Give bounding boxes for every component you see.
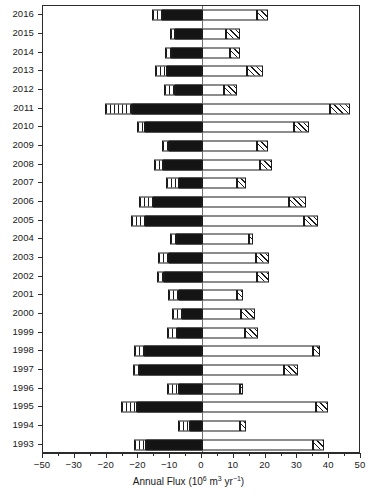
bar-segment-negative-solid	[177, 327, 202, 338]
bar-segment-negative-solid	[175, 29, 202, 40]
bar-segment-positive-open	[202, 346, 313, 357]
bar-segment-positive-open	[202, 234, 249, 245]
y-axis-label-1996: 1996	[12, 383, 34, 393]
bar-segment-positive-hatched	[237, 290, 244, 301]
y-axis-label-1993: 1993	[12, 439, 34, 449]
bar-segment-negative-solid	[162, 10, 202, 21]
bar-segment-negative-striped	[170, 234, 176, 245]
bar-row	[43, 47, 361, 58]
bar-segment-positive-hatched	[256, 253, 269, 264]
bar-segment-negative-solid	[176, 234, 202, 245]
bar-segment-negative-striped	[168, 290, 179, 301]
bar-segment-negative-solid	[182, 309, 202, 320]
x-axis-title-text: Annual Flux (10	[133, 476, 203, 487]
y-axis-tick	[38, 70, 42, 71]
x-axis-tick-major	[265, 453, 266, 458]
bar-segment-positive-open	[202, 402, 316, 413]
x-axis-tick-minor	[344, 453, 345, 456]
y-axis-label-1998: 1998	[12, 345, 34, 355]
bar-segment-negative-striped	[158, 253, 168, 264]
bar-segment-positive-open	[202, 103, 330, 114]
bar-segment-positive-open	[202, 365, 284, 376]
y-axis-label-1995: 1995	[12, 401, 34, 411]
bar-segment-positive-hatched	[260, 159, 272, 170]
bar-row	[43, 309, 361, 320]
x-axis-tick-label: 20	[259, 459, 270, 470]
y-axis-tick	[38, 145, 42, 146]
y-axis-tick	[38, 257, 42, 258]
bar-row	[43, 215, 361, 226]
y-axis-label-2008: 2008	[12, 159, 34, 169]
x-axis-tick-minor	[122, 453, 123, 456]
bar-segment-positive-hatched	[313, 346, 320, 357]
x-axis-title-exponent: −1	[233, 475, 241, 482]
bar-segment-positive-open	[202, 253, 256, 264]
y-axis-label-2013: 2013	[12, 65, 34, 75]
bar-segment-positive-hatched	[284, 365, 299, 376]
y-axis-tick	[38, 33, 42, 34]
bar-segment-positive-hatched	[304, 215, 317, 226]
bar-segment-positive-open	[202, 85, 224, 96]
y-axis-label-2005: 2005	[12, 215, 34, 225]
bar-segment-negative-striped	[154, 159, 163, 170]
y-axis-label-2010: 2010	[12, 121, 34, 131]
bar-row	[43, 327, 361, 338]
bar-segment-positive-hatched	[240, 383, 244, 394]
bar-segment-positive-hatched	[226, 29, 240, 40]
y-axis-tick	[38, 89, 42, 90]
bar-row	[43, 178, 361, 189]
bar-row	[43, 421, 361, 432]
bar-segment-positive-open	[202, 439, 313, 450]
y-axis-label-1999: 1999	[12, 327, 34, 337]
bar-segment-negative-solid	[153, 197, 202, 208]
y-axis-tick	[38, 126, 42, 127]
bar-segment-negative-solid	[144, 346, 202, 357]
x-axis-tick-minor	[312, 453, 313, 456]
y-axis-tick	[38, 238, 42, 239]
bar-segment-positive-open	[202, 141, 257, 152]
y-axis-tick	[38, 108, 42, 109]
bar-row	[43, 253, 361, 264]
x-axis-tick-major	[201, 453, 202, 458]
bar-segment-negative-striped	[165, 47, 171, 58]
bar-segment-negative-striped	[139, 197, 153, 208]
x-axis-tick-minor	[90, 453, 91, 456]
x-axis-tick-minor	[58, 453, 59, 456]
bar-segment-negative-striped	[105, 103, 132, 114]
bar-segment-negative-solid	[145, 215, 202, 226]
bar-row	[43, 141, 361, 152]
bar-segment-positive-open	[202, 383, 240, 394]
y-axis-tick	[38, 220, 42, 221]
x-axis-tick-major	[106, 453, 107, 458]
bar-segment-negative-striped	[133, 365, 139, 376]
bar-segment-negative-striped	[152, 10, 162, 21]
y-axis-label-2011: 2011	[13, 103, 34, 113]
y-axis-label-2014: 2014	[12, 47, 34, 57]
bar-segment-positive-open	[202, 271, 257, 282]
y-axis-label-2003: 2003	[12, 252, 34, 262]
y-axis-label-2012: 2012	[12, 84, 34, 94]
bar-segment-negative-solid	[179, 290, 202, 301]
y-axis-tick	[38, 313, 42, 314]
bar-segment-negative-solid	[169, 253, 202, 264]
bar-row	[43, 365, 361, 376]
bar-segment-negative-striped	[137, 122, 144, 133]
bar-row	[43, 103, 361, 114]
bar-segment-negative-solid	[146, 439, 202, 450]
bar-segment-positive-open	[202, 122, 294, 133]
x-axis-tick-minor	[281, 453, 282, 456]
x-axis-tick-minor	[153, 453, 154, 456]
annual-flux-chart: 2016201520142013201220112010200920082007…	[0, 0, 377, 498]
y-axis-tick	[38, 406, 42, 407]
y-axis-tick	[38, 182, 42, 183]
bar-segment-negative-striped	[166, 178, 178, 189]
x-axis-title-text: m	[207, 476, 218, 487]
y-axis-tick	[38, 350, 42, 351]
bar-segment-negative-striped	[157, 271, 164, 282]
y-axis-tick	[38, 425, 42, 426]
bar-segment-negative-striped	[162, 141, 169, 152]
bar-row	[43, 29, 361, 40]
bar-segment-negative-solid	[190, 421, 202, 432]
x-axis-tick-major	[74, 453, 75, 458]
bar-row	[43, 402, 361, 413]
